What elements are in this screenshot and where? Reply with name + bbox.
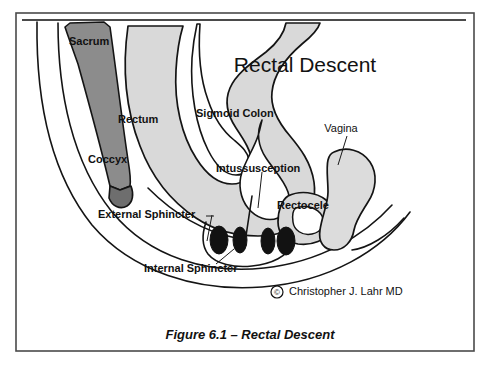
credit-group: © Christopher J. Lahr MD (271, 285, 403, 298)
figure-container: Rectal Descent Sacrum Rectum Coccyx Sigm… (0, 0, 492, 378)
external-sphincter-right (277, 227, 295, 255)
rectal-descent-diagram: Rectal Descent Sacrum Rectum Coccyx Sigm… (0, 0, 492, 378)
credit-name: Christopher J. Lahr MD (289, 285, 403, 297)
copyright-symbol: © (274, 288, 280, 297)
label-external-sphincter: External Sphincter (98, 208, 196, 220)
label-sigmoid-colon: Sigmoid Colon (196, 107, 274, 119)
label-rectocele: Rectocele (277, 199, 329, 211)
figure-caption: Figure 6.1 – Rectal Descent (165, 327, 335, 342)
label-internal-sphincter: Internal Sphincter (144, 262, 238, 274)
label-intussusception: Intussusception (216, 162, 301, 174)
label-vagina: Vagina (324, 122, 358, 134)
label-rectum: Rectum (118, 113, 159, 125)
figure-title: Rectal Descent (234, 53, 377, 76)
internal-sphincter-right (261, 228, 275, 254)
label-sacrum: Sacrum (69, 35, 110, 47)
label-coccyx: Coccyx (88, 153, 128, 165)
internal-sphincter-left (233, 227, 247, 253)
external-sphincter-left (210, 226, 228, 254)
coccyx-shape (109, 186, 133, 208)
